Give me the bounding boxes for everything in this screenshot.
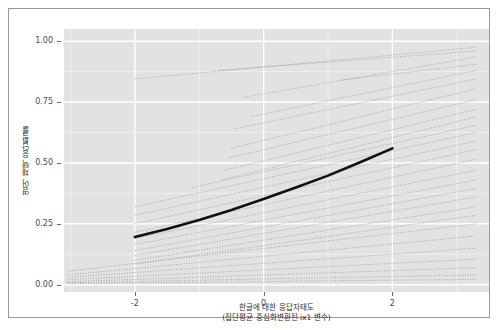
y-tick-mark [57,41,61,42]
y-tick-mark [57,163,61,164]
y-tick-mark [57,102,61,103]
y-tick-mark [57,224,61,225]
x-axis-title: 한글에 대한 응답자태도 (집단평균 중심화변환된 ix1 변수) [64,303,489,322]
y-tick-mark [57,285,61,286]
x-tick-mark [264,292,265,296]
y-axis-title: 영어 채택 응답확률 [19,29,33,292]
figure-frame: 1.000.750.500.250.00 -202 한글에 대한 응답자태도 (… [8,8,490,318]
figure-root: 1.000.750.500.250.00 -202 한글에 대한 응답자태도 (… [0,0,498,330]
x-axis-title-line1: 한글에 대한 응답자태도 [64,303,489,313]
x-tick-mark [392,292,393,296]
x-tick-mark [135,292,136,296]
plot-panel [64,29,489,292]
x-axis-title-line2: (집단평균 중심화변환된 ix1 변수) [64,313,489,323]
y-axis-ticks: 1.000.750.500.250.00 [9,9,64,292]
y-axis-title-text: 영어 채택 응답확률 [21,126,32,195]
plot-svg [64,29,489,292]
